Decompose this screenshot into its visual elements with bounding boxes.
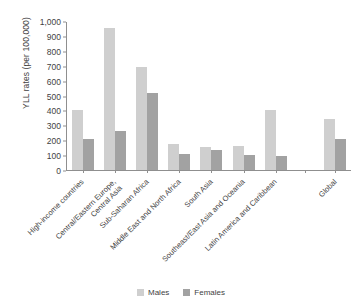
y-tick-mark <box>63 22 66 23</box>
chart-legend: MalesFemales <box>0 288 362 297</box>
y-tick-mark <box>63 156 66 157</box>
y-axis-title: YLL rates (per 100,000) <box>21 0 31 133</box>
bar-females <box>179 154 190 170</box>
x-tick-mark <box>179 170 180 173</box>
y-tick-mark <box>63 96 66 97</box>
x-tick-mark <box>276 170 277 173</box>
bar-group <box>227 22 259 170</box>
y-tick-mark <box>63 126 66 127</box>
x-tick-mark <box>83 170 84 173</box>
bar-females <box>83 139 94 170</box>
legend-swatch-females <box>183 289 190 296</box>
x-tick-mark <box>147 170 148 173</box>
y-tick-mark <box>63 36 66 37</box>
y-tick-mark <box>63 66 66 67</box>
bar-group <box>131 22 163 170</box>
bar-group <box>99 22 131 170</box>
x-tick-mark <box>211 170 212 173</box>
bar-males <box>136 67 147 170</box>
x-tick-mark <box>244 170 245 173</box>
bar-group <box>67 22 99 170</box>
x-tick-mark <box>335 170 336 173</box>
x-axis-label-line: Central/Eastern Europe, <box>55 178 119 242</box>
legend-item-females: Females <box>183 288 225 297</box>
bar-males <box>200 147 211 170</box>
y-tick-mark <box>63 141 66 142</box>
bar-group <box>292 22 319 170</box>
bar-groups <box>67 22 351 170</box>
legend-label: Males <box>148 288 169 297</box>
bar-males <box>324 119 335 170</box>
bar-group <box>195 22 227 170</box>
x-tick-mark <box>115 170 116 173</box>
bar-group <box>260 22 292 170</box>
bar-females <box>147 93 158 170</box>
bar-group <box>163 22 195 170</box>
bar-males <box>72 110 83 170</box>
bar-group <box>319 22 351 170</box>
x-axis-label: South Asia <box>183 178 215 210</box>
legend-label: Females <box>194 288 225 297</box>
bar-females <box>115 131 126 170</box>
x-tick-mark <box>305 170 306 173</box>
bar-females <box>335 139 346 170</box>
bar-females <box>244 155 255 170</box>
bar-males <box>265 110 276 170</box>
y-tick-mark <box>63 81 66 82</box>
legend-swatch-males <box>137 289 144 296</box>
bar-females <box>276 156 287 170</box>
x-axis-label-line: South Asia <box>183 178 215 210</box>
y-tick-mark <box>63 51 66 52</box>
x-axis-label-line: Global <box>317 178 339 200</box>
y-tick-mark <box>63 111 66 112</box>
bar-males <box>233 146 244 170</box>
legend-item-males: Males <box>137 288 169 297</box>
bar-males <box>168 144 179 170</box>
chart-root: YLL rates (per 100,000) 0100200300400500… <box>0 0 362 307</box>
bar-females <box>211 150 222 170</box>
x-axis-label: Global <box>317 178 339 200</box>
bar-males <box>104 28 115 170</box>
y-tick-mark <box>63 171 66 172</box>
x-axis-line <box>66 170 351 171</box>
plot-area: 01002003004005006007008009001,000 <box>66 22 351 171</box>
